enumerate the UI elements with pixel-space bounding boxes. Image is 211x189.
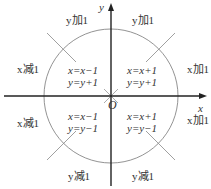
region-label: y减1 (68, 170, 90, 182)
origin-label: O (108, 99, 117, 111)
region-label: y加1 (132, 14, 154, 26)
region-label: x减1 (17, 63, 39, 75)
diagonal-tl (47, 33, 76, 62)
diagonal-br (146, 131, 175, 160)
region-label: y加1 (66, 14, 88, 26)
region-label: y减1 (132, 170, 154, 182)
quadrant-4-formula: x=x+1 y=y−1 (127, 110, 157, 134)
quadrant-1-formula: x=x+1 y=y+1 (127, 64, 157, 88)
diagram-canvas (0, 0, 211, 189)
y-axis-arrow-icon (108, 3, 114, 11)
region-label: x加1 (187, 63, 209, 75)
quadrant-3-formula: x=x−1 y=y−1 (68, 110, 98, 134)
region-label: x加1 (187, 114, 209, 126)
region-label: x减1 (17, 117, 39, 129)
y-axis-label: y (99, 1, 104, 13)
x-axis-label: x (198, 102, 203, 114)
quadrant-2-formula: x=x−1 y=y+1 (68, 64, 98, 88)
x-axis-arrow-icon (199, 93, 207, 99)
diagonal-tr (146, 33, 175, 62)
diagonal-bl (47, 131, 76, 160)
